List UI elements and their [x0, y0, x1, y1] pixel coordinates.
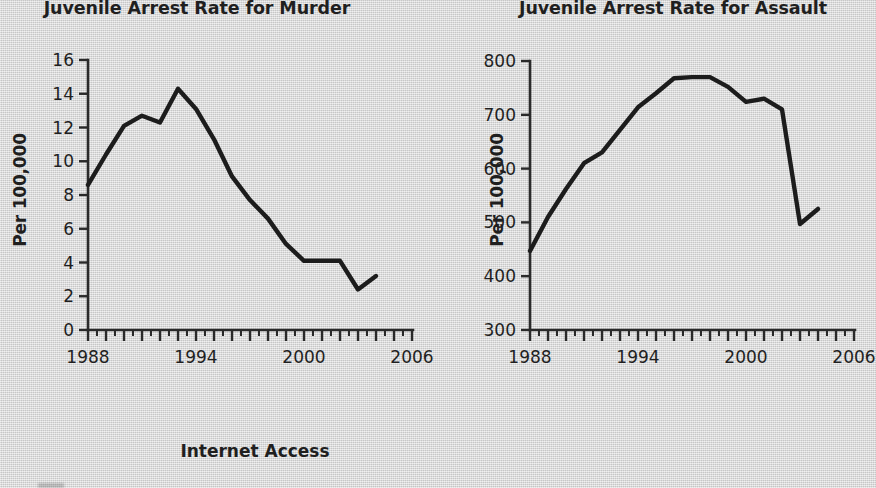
plot-area-murder: 0246810121416 1988199420002006 [0, 0, 438, 400]
data-line-murder [88, 89, 376, 290]
y-tick-label-500: 500 [484, 212, 516, 232]
x-tick-label-group-assault: 1988199420002006 [508, 347, 875, 367]
x-tick-label-2000: 2000 [282, 347, 325, 367]
x-tick-label-1988: 1988 [66, 347, 109, 367]
page-edge-artifact [38, 483, 64, 488]
y-tick-label-8: 8 [63, 185, 74, 205]
data-line-assault [530, 77, 818, 251]
y-tick-group-assault [521, 61, 530, 330]
y-tick-label-12: 12 [52, 118, 74, 138]
y-tick-label-600: 600 [484, 159, 516, 179]
y-tick-label-800: 800 [484, 51, 516, 71]
y-tick-group-murder [79, 60, 88, 330]
x-tick-label-1988: 1988 [508, 347, 551, 367]
y-tick-label-300: 300 [484, 320, 516, 340]
x-tick-label-2000: 2000 [724, 347, 767, 367]
x-tick-group-assault [530, 330, 854, 341]
y-tick-label-700: 700 [484, 105, 516, 125]
y-tick-label-4: 4 [63, 253, 74, 273]
y-tick-label-14: 14 [52, 84, 74, 104]
plot-area-assault: 300400500600700800 1988199420002006 [438, 0, 876, 400]
chart-panel-assault: Juvenile Arrest Rate for Assault Per 100… [438, 0, 876, 400]
x-tick-label-1994: 1994 [616, 347, 659, 367]
axes-assault [530, 61, 855, 330]
x-tick-label-group-murder: 1988199420002006 [66, 347, 433, 367]
x-tick-label-2006: 2006 [390, 347, 433, 367]
x-tick-label-1994: 1994 [174, 347, 217, 367]
x-tick-group-murder [88, 330, 412, 341]
axes-murder [88, 60, 413, 330]
y-tick-label-0: 0 [63, 320, 74, 340]
y-tick-label-400: 400 [484, 266, 516, 286]
y-tick-label-2: 2 [63, 286, 74, 306]
y-tick-label-group-assault: 300400500600700800 [484, 51, 516, 340]
y-tick-label-16: 16 [52, 50, 74, 70]
y-tick-label-6: 6 [63, 219, 74, 239]
footer-caption-internet-access: Internet Access [0, 441, 510, 461]
y-tick-label-group-murder: 0246810121416 [52, 50, 74, 340]
chart-panel-murder: Juvenile Arrest Rate for Murder Per 100,… [0, 0, 438, 400]
x-tick-label-2006: 2006 [832, 347, 875, 367]
y-tick-label-10: 10 [52, 151, 74, 171]
